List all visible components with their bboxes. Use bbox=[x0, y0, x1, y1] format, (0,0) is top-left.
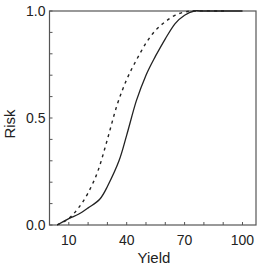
x-tick-label: 10 bbox=[61, 232, 77, 248]
y-tick-label: 0.5 bbox=[26, 110, 46, 126]
data-series bbox=[57, 11, 242, 225]
y-tick-label: 0.0 bbox=[26, 217, 46, 233]
y-axis-tick-labels: 0.00.51.0 bbox=[26, 3, 46, 233]
risk-yield-chart: 0.00.51.0 104070100 Yield Risk bbox=[0, 0, 264, 272]
y-axis-label: Risk bbox=[1, 109, 18, 139]
plot-frame bbox=[50, 11, 257, 225]
y-tick-label: 1.0 bbox=[26, 3, 46, 19]
x-tick-label: 70 bbox=[177, 232, 193, 248]
x-axis-label: Yield bbox=[138, 249, 171, 266]
x-axis-tick-labels: 104070100 bbox=[61, 232, 254, 248]
x-tick-label: 100 bbox=[231, 232, 255, 248]
dashed-risk-curve bbox=[57, 11, 227, 225]
solid-risk-curve bbox=[57, 11, 242, 225]
plot-border bbox=[50, 11, 257, 225]
x-tick-label: 40 bbox=[119, 232, 135, 248]
